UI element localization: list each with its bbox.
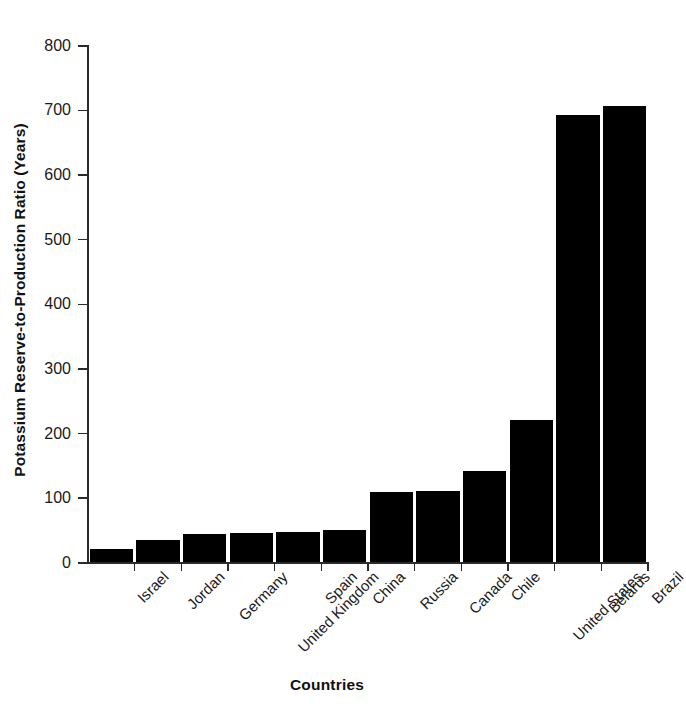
- bar: [90, 549, 133, 562]
- bar: [323, 530, 366, 562]
- y-tick-label: 0: [62, 554, 71, 572]
- x-tick-label: Jordan: [183, 568, 227, 612]
- bar: [276, 532, 319, 562]
- x-tick-label: Russia: [417, 568, 461, 612]
- y-tick-label: 200: [44, 425, 71, 443]
- y-tick-mark: 400: [78, 304, 88, 306]
- y-tick-mark: 800: [78, 45, 88, 47]
- x-tick-label: Brazil: [648, 568, 686, 607]
- y-tick-label: 500: [44, 231, 71, 249]
- y-tick-mark: 700: [78, 110, 88, 112]
- x-tick-label: Chile: [507, 568, 543, 604]
- y-tick-mark: 0: [78, 562, 88, 564]
- bar: [370, 492, 413, 562]
- bar: [463, 471, 506, 562]
- x-axis-tick-labels: IsraelJordanGermanyUnited KingdomSpainCh…: [88, 562, 654, 662]
- y-tick-label: 700: [44, 101, 71, 119]
- x-axis-title: Countries: [0, 676, 654, 694]
- bar: [183, 534, 226, 562]
- y-tick-label: 300: [44, 360, 71, 378]
- bar: [230, 533, 273, 562]
- y-tick-label: 400: [44, 295, 71, 313]
- x-tick-label: Israel: [134, 568, 172, 606]
- x-tick-label: Germany: [235, 568, 291, 624]
- y-axis-title: Potassium Reserve-to-Production Ratio (Y…: [0, 0, 40, 600]
- y-tick-label: 600: [44, 166, 71, 184]
- y-tick-label: 800: [44, 37, 71, 55]
- bar: [556, 115, 599, 562]
- y-axis-title-text: Potassium Reserve-to-Production Ratio (Y…: [11, 123, 29, 476]
- plot-area: 0100200300400500600700800: [88, 45, 648, 562]
- y-tick-mark: 300: [78, 368, 88, 370]
- bar: [603, 106, 646, 562]
- y-tick-mark: 100: [78, 497, 88, 499]
- y-tick-mark: 200: [78, 433, 88, 435]
- bar: [416, 491, 459, 562]
- bar: [136, 540, 179, 562]
- bar: [510, 420, 553, 562]
- y-tick-mark: 500: [78, 239, 88, 241]
- y-tick-label: 100: [44, 489, 71, 507]
- y-tick-mark: 600: [78, 174, 88, 176]
